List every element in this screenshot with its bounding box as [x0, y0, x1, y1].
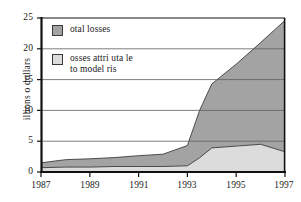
- y-tick-label-0: 0: [11, 166, 33, 176]
- y-tick-label-25: 25: [11, 12, 33, 22]
- area-chart-plot: [0, 0, 301, 202]
- y-tick-label-5: 5: [11, 135, 33, 145]
- legend-swatch-total-losses: [52, 25, 63, 36]
- x-tick-label-1993: 1993: [167, 180, 207, 190]
- legend-label-model-risk-losses: osses attri uta le to model ris: [70, 53, 133, 75]
- x-tick-label-1991: 1991: [119, 180, 159, 190]
- chart-figure: illions o dollars 25 20 15 10 5 0 1987 1…: [0, 0, 301, 202]
- legend-item-total-losses: otal losses: [52, 24, 110, 36]
- y-tick-label-10: 10: [11, 105, 33, 115]
- legend-item-model-risk-losses: osses attri uta le to model ris: [52, 53, 133, 75]
- y-tick-label-20: 20: [11, 43, 33, 53]
- x-tick-label-1989: 1989: [70, 180, 110, 190]
- legend-swatch-model-risk-losses: [52, 54, 63, 65]
- x-tick-label-1987: 1987: [21, 180, 61, 190]
- legend-label-total-losses: otal losses: [70, 24, 110, 35]
- x-tick-label-1997: 1997: [264, 180, 301, 190]
- x-tick-label-1995: 1995: [216, 180, 256, 190]
- y-tick-label-15: 15: [11, 74, 33, 84]
